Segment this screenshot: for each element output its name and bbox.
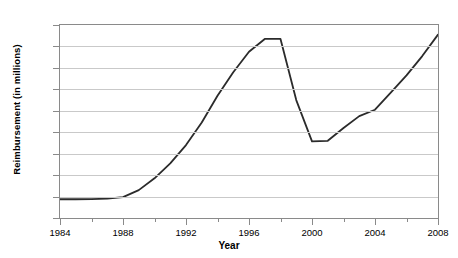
gridline [60, 68, 438, 69]
x-tick-minor [407, 219, 408, 222]
x-tick-label: 2000 [287, 227, 337, 238]
x-tick-minor [155, 219, 156, 222]
x-tick-minor [218, 219, 219, 222]
gridline [60, 175, 438, 176]
x-tick-minor [281, 219, 282, 222]
x-tick-minor [92, 219, 93, 222]
gridline [60, 111, 438, 112]
gridline [60, 154, 438, 155]
x-tick-major [186, 219, 187, 225]
cropped-title-text: ————————— [184, 0, 274, 4]
gridline [60, 132, 438, 133]
x-tick-major [438, 219, 439, 225]
x-tick-minor [344, 219, 345, 222]
cropped-title-sliver: ————————— [0, 0, 458, 7]
x-tick-label: 2008 [413, 227, 458, 238]
x-tick-label: 1996 [224, 227, 274, 238]
chart-figure: ————————— Reimbursement (in millions) 02… [0, 0, 458, 258]
x-tick-label: 1984 [35, 227, 85, 238]
x-tick-major [375, 219, 376, 225]
x-tick-major [249, 219, 250, 225]
y-axis-title: Reimbursement (in millions) [11, 10, 22, 210]
x-tick-major [312, 219, 313, 225]
gridline [60, 197, 438, 198]
plot-area [59, 24, 439, 219]
x-tick-label: 1988 [98, 227, 148, 238]
x-tick-major [123, 219, 124, 225]
x-axis-title: Year [0, 240, 458, 251]
data-series-line [60, 25, 438, 218]
gridline [60, 89, 438, 90]
x-tick-label: 1992 [161, 227, 211, 238]
x-tick-label: 2004 [350, 227, 400, 238]
gridline [60, 46, 438, 47]
x-tick-major [60, 219, 61, 225]
